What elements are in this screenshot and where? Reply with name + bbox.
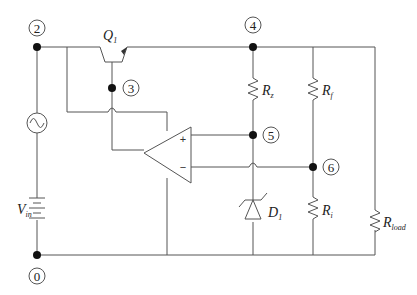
rload-label: Rload <box>382 215 407 232</box>
node-3-dot <box>108 84 116 92</box>
rz-label: Rz <box>261 83 275 100</box>
node-0-label: 0 <box>34 269 41 284</box>
wire-bottom <box>37 230 375 255</box>
battery-vin: Vin <box>17 198 45 219</box>
node-6-dot <box>309 163 317 171</box>
resistor-rload: Rload <box>370 210 407 232</box>
node-2-dot <box>33 43 41 51</box>
circuit-diagram: Q1 + − Vin Rz Rf Ri Rload D1 <box>0 0 417 295</box>
vin-label: Vin <box>17 202 32 219</box>
wire-top-right <box>127 47 375 210</box>
node-6-label: 6 <box>328 160 335 175</box>
wire-supply-loop <box>67 47 167 131</box>
node-2-label: 2 <box>34 21 41 36</box>
transistor-q1: Q1 <box>100 28 127 62</box>
wire-base <box>112 62 144 150</box>
node-5-dot <box>249 131 257 139</box>
op-amp: + − <box>144 127 191 183</box>
node-3-label: 3 <box>128 81 135 96</box>
node-labels: 2 3 4 5 6 0 <box>29 17 339 284</box>
wires <box>37 47 375 255</box>
q1-label: Q1 <box>103 28 117 45</box>
resistor-rz: Rz <box>248 78 275 100</box>
node-0-dot <box>33 251 41 259</box>
node-4-label: 4 <box>250 18 257 33</box>
opamp-minus-sign: − <box>180 161 186 173</box>
resistor-ri: Ri <box>308 197 333 220</box>
resistor-rf: Rf <box>308 78 335 100</box>
d1-label: D1 <box>267 205 282 222</box>
ac-source <box>27 113 47 133</box>
wire-minus-input <box>191 163 313 167</box>
node-dots <box>33 43 317 259</box>
node-4-dot <box>249 43 257 51</box>
opamp-plus-sign: + <box>180 133 186 145</box>
zener-diode-d1: D1 <box>239 193 282 222</box>
rf-label: Rf <box>321 83 335 100</box>
ri-label: Ri <box>321 203 333 220</box>
node-5-label: 5 <box>268 128 275 143</box>
